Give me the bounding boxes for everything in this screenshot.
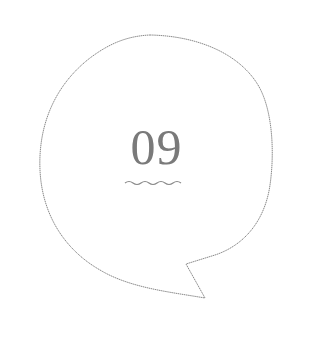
wavy-underline-icon [125,182,181,185]
badge-number: 09 [0,122,309,172]
